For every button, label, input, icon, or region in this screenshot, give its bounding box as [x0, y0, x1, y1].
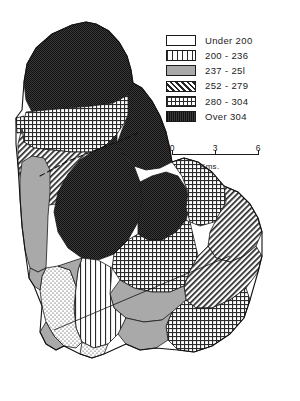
- legend-item-under-200: Under 200: [166, 33, 288, 48]
- legend-item-over-304: Over 304: [166, 109, 288, 124]
- swatch-280-304: [166, 96, 196, 107]
- scale-tick-mark-3: [215, 150, 216, 155]
- scale-unit-label: Kms.: [200, 162, 278, 171]
- swatch-200-236: [166, 50, 196, 61]
- scale-bar: 0 3 6 Kms.: [170, 143, 278, 171]
- legend-label-252-279: 252 - 279: [205, 81, 248, 91]
- legend-item-252-279: 252 - 279: [166, 79, 288, 94]
- choropleth-legend: Under 200 200 - 236 237 - 25l 252 - 279 …: [166, 33, 288, 124]
- legend-label-280-304: 280 - 304: [205, 97, 248, 107]
- legend-label-200-236: 200 - 236: [205, 51, 248, 61]
- swatch-under-200: [166, 35, 196, 46]
- swatch-237-251: [166, 65, 196, 76]
- scale-tick-mark-0: [172, 150, 173, 155]
- scale-axis-wrap: [170, 154, 278, 161]
- legend-item-280-304: 280 - 304: [166, 94, 288, 109]
- legend-label-237-251: 237 - 25l: [205, 66, 245, 76]
- map-figure: Under 200 200 - 236 237 - 25l 252 - 279 …: [0, 0, 300, 401]
- legend-item-237-251: 237 - 25l: [166, 63, 288, 78]
- region-north-cape: [24, 22, 133, 112]
- scale-tick-mark-6: [258, 150, 259, 155]
- swatch-252-279: [166, 81, 196, 92]
- scale-tick-labels: 0 3 6: [170, 143, 278, 154]
- legend-label-under-200: Under 200: [205, 36, 253, 46]
- region-west-coast-strip: [20, 156, 50, 272]
- region-west-nub: [16, 116, 25, 133]
- legend-item-200-236: 200 - 236: [166, 48, 288, 63]
- legend-label-over-304: Over 304: [205, 112, 247, 122]
- swatch-over-304: [166, 111, 196, 122]
